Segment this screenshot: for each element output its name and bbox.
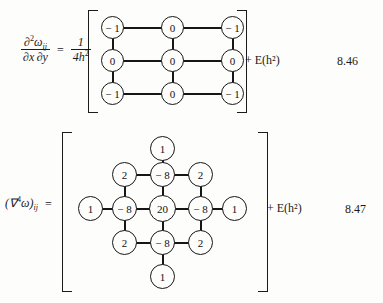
stencil-node-bottom-outer: 1 (150, 264, 175, 289)
equation-page: ∂2ωij ∂x ∂y = 1 4h2 − 1 0 − 1 0 0 0 − 1 … (0, 0, 383, 303)
stencil-node-middle-right: − 8 (188, 196, 213, 221)
stencil-node-top-outer: 1 (150, 136, 175, 161)
stencil-node-right-outer: 1 (222, 196, 247, 221)
biharmonic-operator: (∇4ω)ij (5, 196, 38, 210)
stencil-node-lower-right: 2 (188, 230, 213, 255)
stencil-node-lower-left: 2 (112, 230, 137, 255)
stencil-node: 0 (101, 49, 124, 72)
stencil-node-upper-center: − 8 (150, 162, 175, 187)
stencil-node: − 1 (221, 82, 244, 105)
truncation-error-term-8-47: + E(h²) (267, 202, 302, 214)
stencil-node: − 1 (101, 82, 124, 105)
stencil-node: 0 (161, 16, 184, 39)
partial-derivative-fraction: ∂2ωij ∂x ∂y (21, 36, 50, 63)
stencil-node-middle-left: − 8 (112, 196, 137, 221)
stencil-node-upper-left: 2 (112, 162, 137, 187)
stencil-node-left-outer: 1 (78, 196, 103, 221)
left-bracket-8-46 (88, 10, 98, 113)
stencil-node-upper-right: 2 (188, 162, 213, 187)
equation-8-47-left-hand-side: (∇4ω)ij = (5, 197, 56, 210)
partial-derivative-numerator: ∂2ωij (21, 36, 50, 49)
left-bracket-8-47 (62, 132, 72, 292)
equation-8-46-left-hand-side: ∂2ωij ∂x ∂y = 1 4h2 (21, 36, 91, 63)
stencil-node: − 1 (101, 16, 124, 39)
equation-number-8-46: 8.46 (337, 54, 358, 69)
stencil-node: 0 (221, 49, 244, 72)
equals-sign-8-46: = (53, 44, 68, 56)
stencil-node-lower-center: − 8 (150, 230, 175, 255)
stencil-node: 0 (161, 49, 184, 72)
stencil-node: 0 (161, 82, 184, 105)
stencil-node: − 1 (221, 16, 244, 39)
equation-number-8-47: 8.47 (345, 202, 366, 217)
truncation-error-term-8-46: + E(h²) (245, 54, 280, 66)
partial-derivative-denominator: ∂x ∂y (21, 49, 50, 63)
equals-sign-8-47: = (41, 198, 56, 210)
stencil-node-center: 20 (149, 195, 176, 222)
